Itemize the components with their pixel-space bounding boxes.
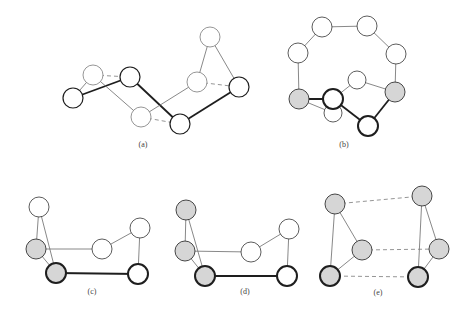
node-circle (348, 71, 366, 89)
thick-edge (56, 273, 138, 274)
node-circle (241, 242, 261, 262)
panel-label: (c) (88, 287, 97, 296)
panel-label: (e) (374, 288, 383, 297)
panel-label: (a) (139, 140, 148, 149)
panel-label: (b) (339, 140, 349, 149)
node-circle (320, 266, 340, 286)
node-circle (120, 67, 140, 87)
figure-canvas: (a)(b)(c)(d)(e) (0, 0, 473, 315)
graph-figure: (a)(b)(c)(d)(e) (0, 0, 473, 315)
node-circle (279, 219, 299, 239)
node-circle (408, 267, 428, 287)
node-circle (92, 239, 112, 259)
node-circle (323, 89, 343, 109)
node-circle (312, 17, 332, 37)
node-circle (170, 114, 190, 134)
node-circle (130, 218, 150, 238)
node-circle (385, 82, 405, 102)
node-circle (357, 16, 377, 36)
node-circle (46, 263, 66, 283)
dashed-edge (362, 249, 439, 250)
node-circle (429, 239, 449, 259)
node-circle (277, 266, 297, 286)
dashed-edge (335, 196, 422, 204)
panel-b: (b) (288, 16, 406, 149)
node-circle (83, 65, 103, 85)
dashed-edge (330, 276, 418, 277)
node-circle (128, 264, 148, 284)
node-circle (131, 107, 151, 127)
panel-e: (e) (320, 186, 449, 297)
node-circle (176, 200, 196, 220)
node-circle (195, 266, 215, 286)
node-circle (200, 27, 220, 47)
node-circle (412, 186, 432, 206)
node-circle (289, 89, 309, 109)
node-circle (288, 43, 308, 63)
node-circle (358, 116, 378, 136)
panel-label: (d) (240, 287, 250, 296)
node-circle (325, 194, 345, 214)
node-circle (29, 197, 49, 217)
node-circle (229, 77, 249, 97)
node-circle (187, 72, 207, 92)
thin-edge (418, 196, 422, 277)
node-circle (386, 44, 406, 64)
panel-a: (a) (63, 27, 249, 149)
node-circle (175, 241, 195, 261)
node-circle (352, 240, 372, 260)
panel-c: (c) (26, 197, 150, 296)
node-circle (63, 88, 83, 108)
node-circle (26, 239, 46, 259)
panel-d: (d) (175, 200, 299, 296)
